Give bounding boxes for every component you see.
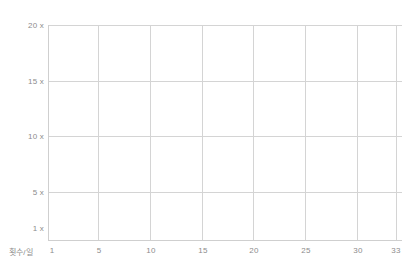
chart-container: 20 x 15 x 10 x 5 x 1 x 1 5 10 15 20 25 3… bbox=[0, 0, 419, 278]
x-tick-label-33: 33 bbox=[391, 246, 400, 255]
gridline-vertical-30 bbox=[357, 25, 358, 240]
gridline-vertical-20 bbox=[253, 25, 254, 240]
y-tick-label-5: 5 x bbox=[0, 188, 44, 197]
y-tick-label-15: 15 x bbox=[0, 77, 44, 86]
y-axis-line bbox=[48, 25, 49, 240]
y-tick-label-20: 20 x bbox=[0, 21, 44, 30]
gridline-vertical-25 bbox=[305, 25, 306, 240]
gridline-vertical-10 bbox=[150, 25, 151, 240]
x-tick-label-20: 20 bbox=[249, 246, 258, 255]
x-tick-label-30: 30 bbox=[353, 246, 362, 255]
y-tick-label-1: 1 x bbox=[0, 224, 44, 233]
x-axis-labels: 1 5 10 15 20 25 30 33 bbox=[0, 246, 419, 260]
gridline-horizontal-15 bbox=[48, 81, 402, 82]
gridline-vertical-33 bbox=[396, 25, 397, 240]
x-tick-label-10: 10 bbox=[146, 246, 155, 255]
x-tick-label-1: 1 bbox=[50, 246, 55, 255]
x-tick-label-25: 25 bbox=[301, 246, 310, 255]
gridline-horizontal-5 bbox=[48, 192, 402, 193]
gridline-vertical-15 bbox=[202, 25, 203, 240]
gridline-horizontal-10 bbox=[48, 136, 402, 137]
plot-area bbox=[48, 25, 402, 240]
x-tick-label-15: 15 bbox=[198, 246, 207, 255]
x-tick-label-5: 5 bbox=[97, 246, 102, 255]
y-tick-label-10: 10 x bbox=[0, 132, 44, 141]
y-axis-labels: 20 x 15 x 10 x 5 x 1 x bbox=[0, 0, 44, 278]
gridline-vertical-5 bbox=[98, 25, 99, 240]
x-axis-caption: 횟수/일 bbox=[9, 246, 33, 257]
x-axis-line bbox=[48, 240, 402, 241]
gridline-horizontal-20 bbox=[48, 25, 402, 26]
